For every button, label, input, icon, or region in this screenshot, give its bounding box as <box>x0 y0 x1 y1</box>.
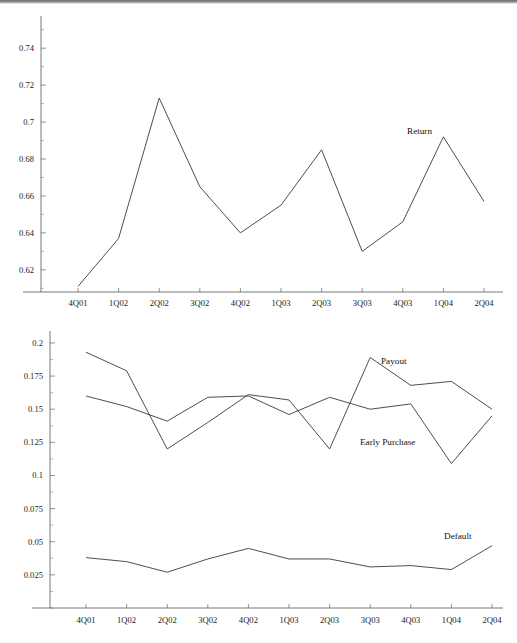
y-tick-label: 0.66 <box>19 191 35 201</box>
x-tick-label: 1Q04 <box>442 615 462 625</box>
default-label: Default <box>444 531 472 541</box>
x-tick-label: 2Q03 <box>312 298 331 308</box>
x-tick-label: 3Q03 <box>353 298 372 308</box>
return-chart-panel: 0.620.640.660.680.70.720.74 4Q011Q022Q02… <box>0 4 517 320</box>
y-tick-label: 0.2 <box>32 338 43 348</box>
x-tick-label: 4Q03 <box>401 615 420 625</box>
x-tick-label: 4Q01 <box>76 615 95 625</box>
x-tick-label: 2Q04 <box>474 298 494 308</box>
return-chart-svg: 0.620.640.660.680.70.720.74 4Q011Q022Q02… <box>0 4 517 320</box>
x-tick-label: 1Q02 <box>117 615 136 625</box>
payout-default-chart-panel: 0.0250.050.0750.10.1250.150.1750.2 4Q011… <box>0 322 517 643</box>
y-tick-label: 0.05 <box>28 537 43 547</box>
payout-x-axis-labels: 4Q011Q022Q023Q024Q021Q032Q033Q034Q031Q04… <box>76 615 502 625</box>
y-tick-label: 0.64 <box>19 228 35 238</box>
y-tick-label: 0.7 <box>23 117 34 127</box>
x-tick-label: 1Q03 <box>279 615 298 625</box>
return-x-axis-labels: 4Q011Q022Q023Q024Q021Q032Q033Q034Q031Q04… <box>68 298 494 308</box>
payout-default-chart-svg: 0.0250.050.0750.10.1250.150.1750.2 4Q011… <box>0 322 517 643</box>
x-tick-label: 4Q02 <box>231 298 250 308</box>
series-line-default <box>86 546 492 573</box>
x-tick-label: 2Q04 <box>482 615 502 625</box>
x-tick-label: 2Q02 <box>150 298 169 308</box>
x-tick-label: 3Q02 <box>190 298 209 308</box>
return-label: Return <box>407 126 432 136</box>
return-annotations: Return <box>407 126 432 136</box>
x-tick-label: 4Q03 <box>393 298 412 308</box>
return-y-axis-ticks <box>41 30 46 289</box>
x-tick-label: 1Q03 <box>271 298 290 308</box>
x-tick-label: 2Q02 <box>158 615 177 625</box>
early-purchase-label: Early Purchase <box>360 437 415 447</box>
y-tick-label: 0.1 <box>32 470 43 480</box>
y-tick-label: 0.175 <box>24 371 43 381</box>
x-tick-label: 1Q02 <box>109 298 128 308</box>
return-x-axis-ticks <box>78 288 484 292</box>
x-tick-label: 3Q03 <box>361 615 380 625</box>
figure-page: 0.620.640.660.680.70.720.74 4Q011Q022Q02… <box>0 0 517 643</box>
x-tick-label: 3Q02 <box>198 615 217 625</box>
y-tick-label: 0.075 <box>24 504 43 514</box>
y-tick-label: 0.025 <box>24 570 43 580</box>
payout-series-lines <box>86 352 492 572</box>
y-tick-label: 0.15 <box>28 404 43 414</box>
y-tick-label: 0.68 <box>19 154 34 164</box>
payout-label: Payout <box>381 356 407 366</box>
payout-y-axis-ticks <box>50 343 55 608</box>
return-y-axis-labels: 0.620.640.660.680.70.720.74 <box>19 43 35 275</box>
x-tick-label: 4Q02 <box>239 615 258 625</box>
y-tick-label: 0.72 <box>19 80 34 90</box>
y-tick-label: 0.62 <box>19 265 34 275</box>
x-tick-label: 2Q03 <box>320 615 339 625</box>
payout-y-axis-labels: 0.0250.050.0750.10.1250.150.1750.2 <box>24 338 43 580</box>
x-tick-label: 1Q04 <box>434 298 454 308</box>
y-tick-label: 0.125 <box>24 437 43 447</box>
series-line-early-purchase <box>86 396 492 464</box>
y-tick-label: 0.74 <box>19 43 35 53</box>
x-tick-label: 4Q01 <box>68 298 87 308</box>
payout-x-axis-ticks <box>86 604 492 608</box>
